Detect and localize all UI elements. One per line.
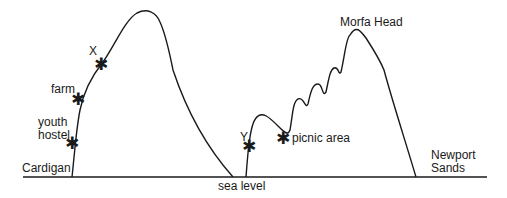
label-sea-level: sea level — [218, 180, 265, 193]
asterisk-marker-icon-youth-hostel: ✱ — [65, 135, 79, 152]
asterisk-marker-icon-farm: ✱ — [71, 91, 85, 108]
marker-picnic-area-label: picnic area — [292, 132, 350, 145]
asterisk-marker-icon-x: ✱ — [94, 56, 108, 73]
asterisk-marker-icon-y: ✱ — [242, 138, 256, 155]
label-cardigan: Cardigan — [22, 162, 71, 175]
right-hill-profile — [246, 29, 416, 177]
left-hill-profile — [72, 11, 233, 177]
label-morfa-head: Morfa Head — [340, 16, 403, 29]
label-newport-sands: Newport Sands — [431, 149, 476, 175]
asterisk-marker-icon-picnic-area: ✱ — [276, 130, 290, 147]
